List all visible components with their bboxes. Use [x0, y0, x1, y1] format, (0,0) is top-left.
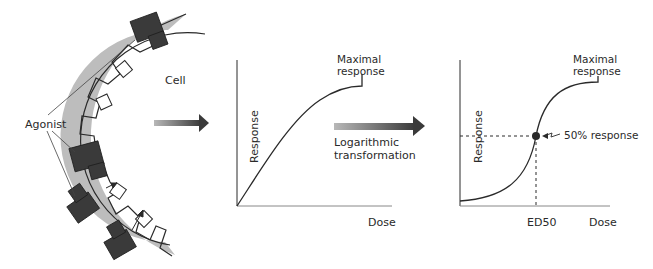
- ed50-label: ED50: [527, 216, 556, 229]
- fifty-percent-response-label: 50% response: [564, 129, 638, 141]
- y-axis-label: Response: [472, 110, 485, 163]
- arrow-2-logarithmic: Logarithmic transformation: [334, 116, 425, 162]
- x-axis-label: Dose: [368, 216, 396, 229]
- log-dose-response-chart: Response Dose ED50 50% response Maximal …: [460, 53, 638, 229]
- arrow-1: [154, 114, 209, 132]
- max-response-label-line2: response: [337, 65, 385, 77]
- log-transform-label-line2: transformation: [334, 149, 416, 162]
- max-response-label-line1: Maximal: [573, 53, 617, 65]
- log-transform-label-line1: Logarithmic: [334, 136, 399, 149]
- max-response-label-line2: response: [573, 65, 621, 77]
- midpoint-marker: [532, 132, 540, 140]
- agonist-free-bottom: [98, 219, 137, 260]
- cell-label: Cell: [165, 74, 186, 87]
- max-response-label-line1: Maximal: [337, 53, 381, 65]
- x-axis-label: Dose: [589, 216, 617, 229]
- y-axis-label: Response: [248, 110, 261, 163]
- dose-response-diagram: Agonist Cell Response Dose Maximal respo…: [0, 0, 653, 269]
- agonist-label: Agonist: [25, 118, 67, 131]
